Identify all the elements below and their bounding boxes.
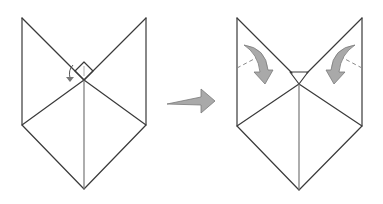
step-before-figure [22,18,146,189]
folded-small-triangle [290,72,308,84]
crease-center-right [299,84,362,126]
fold-line-right [343,58,362,68]
transition-arrow-icon [167,89,215,113]
origami-diagram [0,0,383,204]
crease-center-left [237,84,299,126]
crease-center-right [84,80,146,125]
fold-line-left [237,58,256,68]
fold-arrow-right-icon [326,45,355,84]
crease-center-left [22,80,84,125]
step-after-figure [237,18,362,190]
small-fold-arrow-icon [69,65,73,78]
fold-arrow-left-icon [244,45,273,84]
small-arrowhead-icon [66,77,74,82]
